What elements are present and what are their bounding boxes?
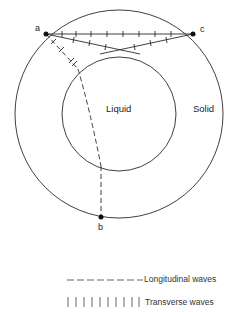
point-c [191,32,196,37]
label-solid: Solid [193,103,214,114]
legend-label-longitudinal: Longitudinal waves [144,274,216,284]
legend-label-transverse: Transverse waves [145,297,214,307]
ray-c-to-a-curved [100,34,193,54]
ray-a-b [46,34,101,217]
ray-a-c-direct [46,31,193,37]
point-b [99,215,104,220]
legend-tick-line [68,297,139,307]
outer-circle [15,10,223,218]
label-point-b: b [98,222,103,232]
earth-wave-diagram [0,0,238,312]
label-point-c: c [200,24,205,34]
inner-circle [62,57,176,171]
point-a [44,32,49,37]
label-point-a: a [35,23,40,33]
label-liquid: Liquid [106,103,131,114]
